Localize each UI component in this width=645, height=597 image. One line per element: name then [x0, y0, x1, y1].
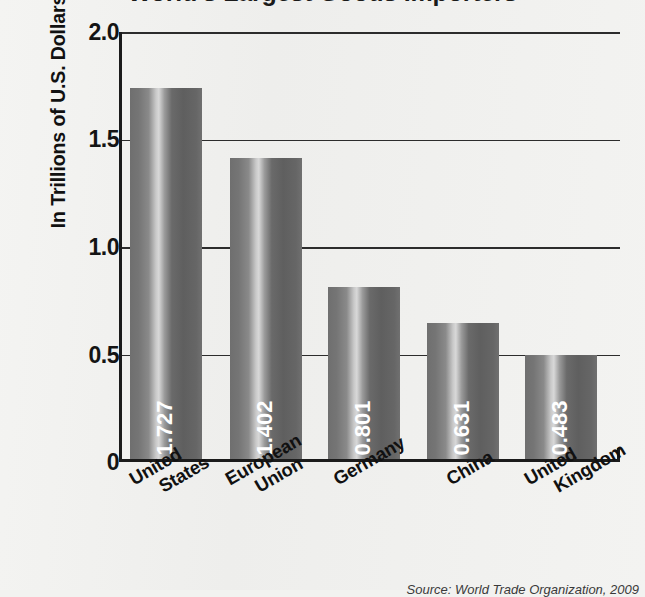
- plot-area: 1.727 1.402 0.801 0.631 0.483: [119, 32, 620, 462]
- y-axis-line: [119, 32, 122, 462]
- bar-china[interactable]: 0.631: [427, 323, 499, 459]
- bar-value-wrap: 0.631: [427, 365, 499, 451]
- y-tick-label-2.0: 2.0: [63, 19, 119, 46]
- source-note: Source: World Trade Organization, 2009: [407, 582, 639, 597]
- y-tick-label-0: 0: [63, 449, 119, 476]
- y-tick-label-1.0: 1.0: [63, 234, 119, 261]
- bar-germany[interactable]: 0.801: [328, 287, 400, 459]
- y-tick-label-1.5: 1.5: [63, 126, 119, 153]
- y-tick-label-0.5: 0.5: [63, 342, 119, 369]
- bar-united-states[interactable]: 1.727: [130, 88, 202, 459]
- bar-european-union[interactable]: 1.402: [230, 158, 302, 459]
- gridline-2.0: [119, 32, 620, 34]
- chart-title: World's Largest Goods Importers: [0, 0, 645, 7]
